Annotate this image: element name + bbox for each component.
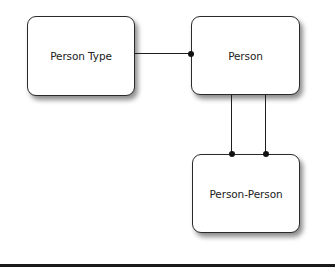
connector-end-dot (229, 151, 235, 157)
entity-label: Person Type (50, 50, 112, 62)
entity-label: Person-Person (209, 188, 282, 200)
entity-label: Person (228, 50, 263, 62)
connector-person-personperson-2 (265, 95, 266, 154)
connector-person-personperson-1 (231, 95, 232, 154)
entity-person: Person (191, 16, 300, 95)
entity-person-person: Person-Person (192, 154, 300, 233)
connector-end-dot (188, 51, 194, 57)
connector-persontype-person (135, 53, 191, 54)
entity-person-type: Person Type (27, 16, 135, 96)
connector-end-dot (263, 151, 269, 157)
bottom-rule (0, 264, 335, 267)
